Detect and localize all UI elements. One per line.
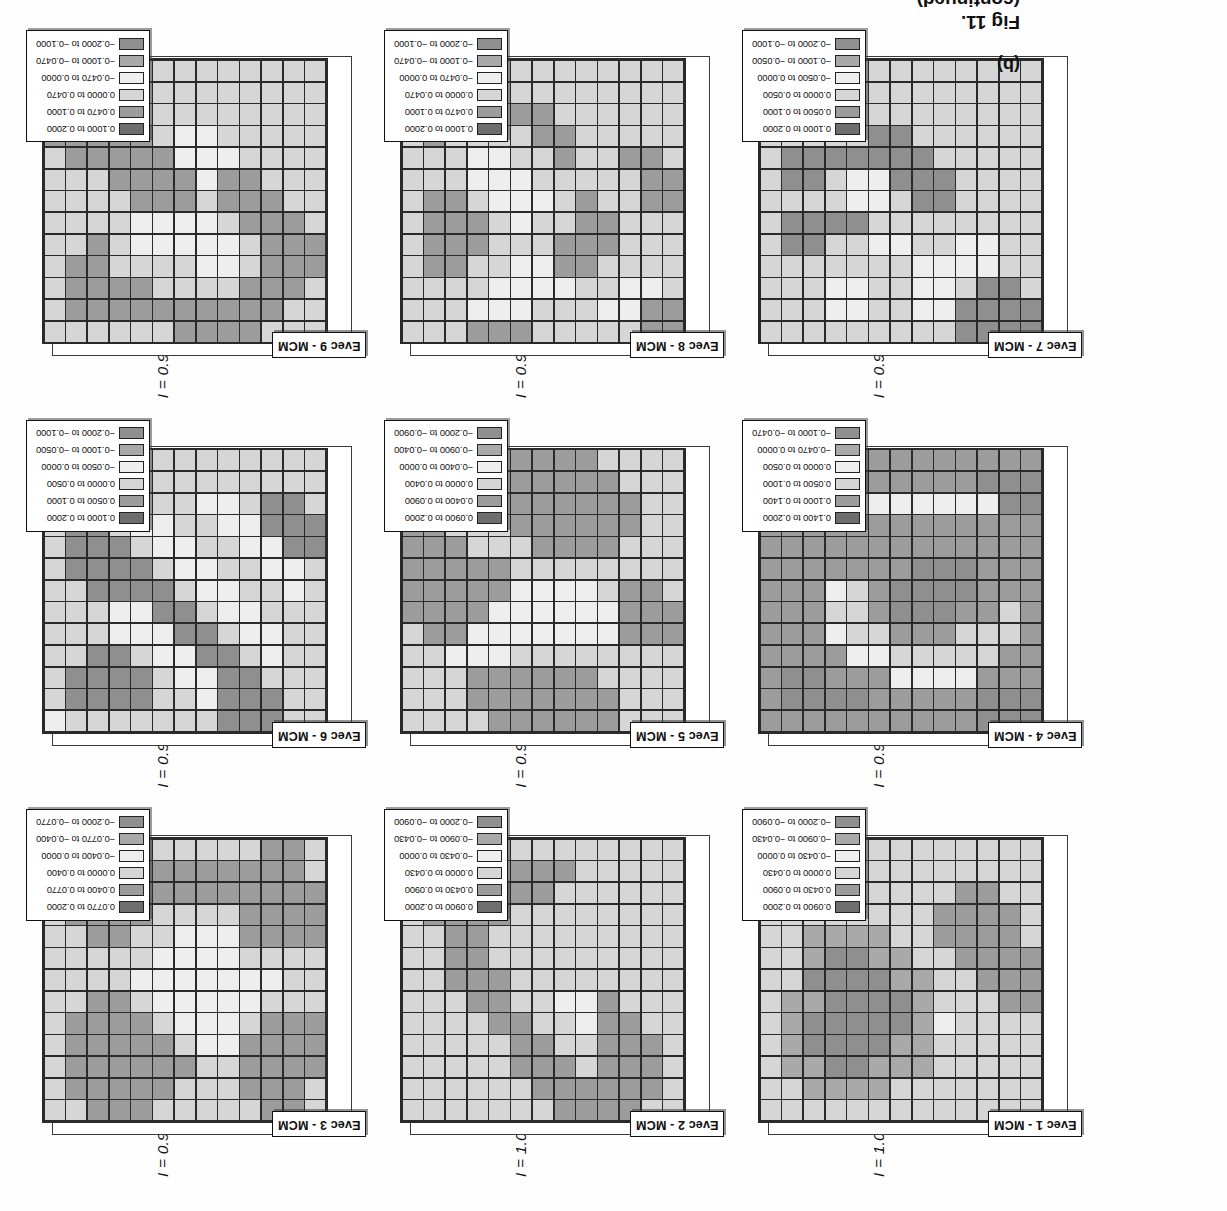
heatmap-cell [284,840,304,860]
heatmap-cell [576,278,596,298]
heatmap-cell [598,472,618,492]
heatmap-cell [869,668,889,688]
heatmap-cell [891,450,911,470]
heatmap-cell [869,515,889,535]
heatmap-cell [913,213,933,233]
heatmap-cell [468,624,488,644]
heatmap-cell [153,61,173,81]
heatmap-cell [913,235,933,255]
heatmap-cell [826,278,846,298]
heatmap-cell [446,235,466,255]
heatmap-cell [956,191,976,211]
heatmap-cell [305,927,325,947]
heatmap-cell [533,948,553,968]
heatmap-cell [45,559,65,579]
heatmap-cell [913,322,933,342]
heatmap-cell [576,450,596,470]
heatmap-cell [1021,278,1041,298]
heatmap-cell [218,515,238,535]
legend-entry: 0.0500 to 0.1000 [749,104,860,119]
heatmap-cell [598,927,618,947]
heatmap-cell [110,711,130,731]
heatmap-cell [45,711,65,731]
heatmap-cell [934,235,954,255]
heatmap-cell [620,581,640,601]
heatmap-cell [131,191,151,211]
heatmap-cell [555,711,575,731]
heatmap-cell [956,515,976,535]
heatmap-cell [175,213,195,233]
panel-name-tag: Evec 3 - MCM [272,1111,366,1137]
heatmap-cell [1021,905,1041,925]
heatmap-cell [804,711,824,731]
heatmap-cell [642,927,662,947]
heatmap-cell [284,235,304,255]
heatmap-cell [891,1013,911,1033]
heatmap-cell [88,148,108,168]
heatmap-cell [956,559,976,579]
heatmap-cell [978,970,998,990]
heatmap-cell [913,472,933,492]
heatmap-cell [262,883,282,903]
legend-label: −0.0500 to 0.0000 [33,462,115,472]
heatmap-panel: I = 1.022Evec 1 - MCM−0.2000 to −0.0900−… [752,800,1096,1181]
heatmap-cell [66,213,86,233]
heatmap-cell [934,256,954,276]
heatmap-cell [175,970,195,990]
heatmap-cell [533,256,553,276]
heatmap-cell [240,1079,260,1099]
heatmap-cell [511,1057,531,1077]
legend-entry: 0.0000 to 0.0500 [749,87,860,102]
heatmap-cell [66,711,86,731]
heatmap-cell [468,300,488,320]
heatmap-cell [284,689,304,709]
legend-entry: −0.0430 to 0.0000 [749,849,860,864]
heatmap-cell [1000,278,1020,298]
legend-swatch [835,885,860,897]
heatmap-cell [913,450,933,470]
heatmap-cell [197,861,217,881]
heatmap-cell [978,624,998,644]
heatmap-cell [175,883,195,903]
heatmap-cell [1000,948,1020,968]
heatmap-cell [533,1079,553,1099]
heatmap-cell [197,927,217,947]
heatmap-cell [934,170,954,190]
heatmap-cell [1000,300,1020,320]
legend-entry: −0.0400 to 0.0000 [391,460,502,475]
heatmap-cell [533,515,553,535]
color-legend: −0.1000 to −0.0470−0.0470 to 0.00000.000… [742,420,866,532]
legend-swatch [477,72,502,84]
heatmap-cell [218,668,238,688]
heatmap-cell [620,170,640,190]
heatmap-cell [956,689,976,709]
heatmap-cell [153,235,173,255]
heatmap-cell [761,970,781,990]
heatmap-cell [218,494,238,514]
legend-swatch [119,868,144,880]
heatmap-cell [218,278,238,298]
legend-entry: −0.1000 to −0.0500 [33,443,144,458]
panel-name-label: Evec 6 - MCM [278,729,360,743]
heatmap-cell [262,256,282,276]
heatmap-cell [847,1079,867,1099]
heatmap-cell [305,515,325,535]
heatmap-cell [110,300,130,320]
legend-swatch [835,834,860,846]
legend-swatch [477,461,502,473]
heatmap-cell [403,1100,423,1120]
heatmap-cell [913,970,933,990]
heatmap-cell [446,278,466,298]
heatmap-cell [197,1057,217,1077]
heatmap-cell [934,472,954,492]
heatmap-cell [305,1079,325,1099]
heatmap-cell [761,1035,781,1055]
heatmap-cell [88,668,108,688]
heatmap-cell [913,668,933,688]
panel-name-tag: Evec 2 - MCM [630,1111,724,1137]
heatmap-cell [533,646,553,666]
heatmap-cell [620,104,640,124]
heatmap-cell [913,883,933,903]
heatmap-cell [978,1013,998,1033]
legend-entry: −0.0400 to 0.0000 [33,849,144,864]
